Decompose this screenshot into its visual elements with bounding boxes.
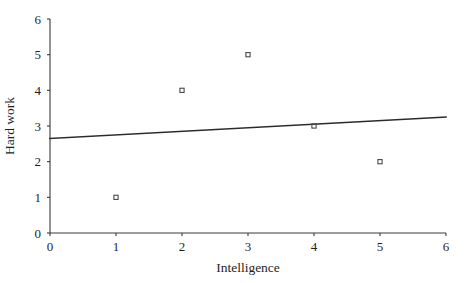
x-tick-label: 0: [47, 239, 54, 254]
y-tick-label: 3: [35, 119, 42, 134]
x-tick-label: 4: [311, 239, 318, 254]
trend-line-group: [50, 117, 446, 138]
plot-canvas: 0123456 0123456 Intelligence Hard work: [0, 0, 468, 283]
x-tick-label: 1: [113, 239, 120, 254]
x-tick-label: 2: [179, 239, 186, 254]
data-point-marker: [378, 160, 382, 164]
y-tick-label: 0: [35, 226, 42, 241]
x-axis-ticks: 0123456: [47, 233, 450, 254]
x-tick-label: 5: [377, 239, 384, 254]
x-tick-label: 6: [443, 239, 450, 254]
y-axis-ticks: 0123456: [35, 12, 51, 241]
axes: [50, 19, 446, 233]
regression-trend-line: [50, 117, 446, 138]
data-point-marker: [180, 88, 184, 92]
x-axis-title: Intelligence: [216, 260, 280, 275]
x-tick-label: 3: [245, 239, 252, 254]
y-tick-label: 6: [35, 12, 42, 27]
data-points: [114, 53, 382, 200]
y-axis-title: Hard work: [2, 97, 17, 155]
y-tick-label: 1: [35, 190, 42, 205]
y-tick-label: 4: [35, 83, 42, 98]
data-point-marker: [246, 53, 250, 57]
y-tick-label: 5: [35, 47, 42, 62]
y-tick-label: 2: [35, 154, 42, 169]
data-point-marker: [114, 195, 118, 199]
scatter-plot-figure: 0123456 0123456 Intelligence Hard work: [0, 0, 468, 283]
